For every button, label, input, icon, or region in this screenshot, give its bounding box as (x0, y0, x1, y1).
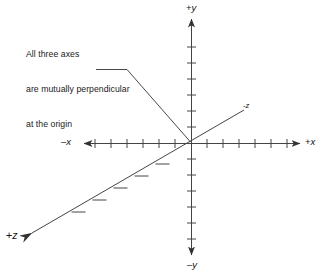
minus-z-axis-letter: z (246, 101, 250, 110)
plus-x-axis-letter: x (311, 136, 316, 147)
axis-label-plus-z: +z (6, 229, 17, 241)
axes-annotation: All three axes are mutually perpendicula… (26, 26, 130, 154)
plus-z-axis-letter: z (12, 229, 17, 241)
minus-x-axis-letter: x (66, 136, 71, 147)
z-axis-ticks (72, 164, 170, 212)
plus-y-axis-letter: y (192, 2, 197, 13)
y-axis-group (187, 19, 196, 255)
annotation-line-2: are mutually perpendicular (26, 84, 130, 96)
axis-label-plus-x: +x (305, 136, 315, 147)
axis-label-minus-z: -z (243, 101, 249, 110)
axis-label-minus-x: –x (61, 136, 71, 147)
coordinate-axes-figure: All three axes are mutually perpendicula… (0, 0, 329, 277)
minus-y-axis-letter: y (192, 259, 197, 270)
annotation-line-1: All three axes (26, 49, 130, 61)
axis-label-minus-y: –y (187, 259, 197, 270)
annotation-line-3: at the origin (26, 119, 130, 131)
axis-label-plus-y: +y (186, 2, 196, 13)
